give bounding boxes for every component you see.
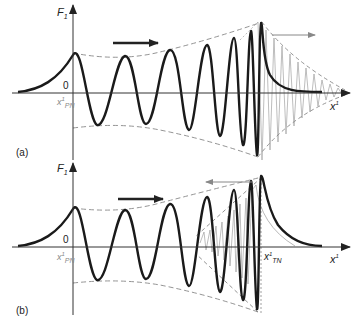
- x-tn-label-b: x1TN: [264, 251, 282, 264]
- y-axis-label-a: F1: [57, 7, 68, 20]
- lower-envelope-a: [73, 125, 258, 157]
- x-axis-label-a: x1: [330, 100, 339, 112]
- x-axis-label-b: x1: [330, 253, 339, 265]
- x-pn-label-a: x1PN: [57, 96, 75, 109]
- y-axis-label-b: F1: [57, 163, 68, 176]
- origin-label-a: 0: [63, 81, 69, 91]
- panel-tag-b: (b): [16, 306, 28, 316]
- panel-tag-a: (a): [16, 148, 28, 158]
- figure-canvas: [0, 0, 356, 325]
- origin-label-b: 0: [63, 235, 69, 245]
- reflected-envelope-lower-b: [195, 253, 258, 312]
- x-pn-label-b: x1PN: [57, 251, 75, 264]
